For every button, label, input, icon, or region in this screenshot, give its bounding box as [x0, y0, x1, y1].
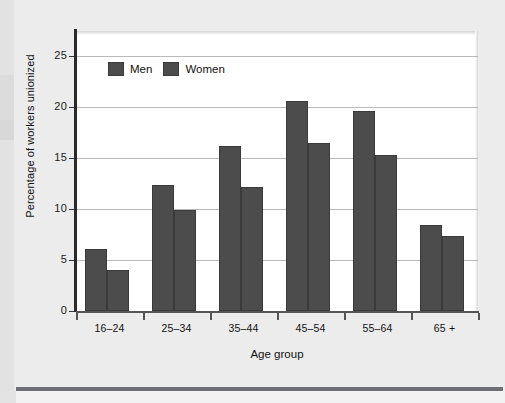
x-axis-tick-label: 25–34 — [143, 322, 210, 334]
page-background: 0510152025 Percentage of workers unioniz… — [0, 0, 505, 403]
gridline — [76, 209, 478, 210]
x-axis-tick-mark — [277, 313, 279, 320]
plot-right-shading — [475, 31, 478, 312]
legend-label-women: Women — [185, 63, 224, 75]
bar-men-0 — [85, 249, 107, 311]
bar-women-5 — [442, 236, 464, 311]
bar-chart: 0510152025 Percentage of workers unioniz… — [0, 0, 505, 389]
legend: Men Women — [108, 62, 225, 76]
x-axis-tick-mark — [478, 313, 480, 320]
bar-women-3 — [308, 143, 330, 311]
x-axis-tick-label: 45–54 — [277, 322, 344, 334]
x-axis-tick-mark — [344, 313, 346, 320]
y-axis-tick-label: 5 — [27, 253, 67, 265]
legend-label-men: Men — [130, 63, 152, 75]
legend-swatch-women — [163, 62, 179, 76]
x-axis-tick-label: 65 + — [411, 322, 478, 334]
bar-men-2 — [219, 146, 241, 311]
gridline — [76, 260, 478, 261]
plot-top-shading — [76, 31, 478, 35]
legend-item-women: Women — [163, 62, 224, 76]
bar-men-3 — [286, 101, 308, 311]
bar-women-2 — [241, 187, 263, 311]
x-axis-tick-mark — [411, 313, 413, 320]
y-axis-tick-label: 0 — [27, 304, 67, 316]
page-bottom-left-strip — [0, 391, 16, 403]
y-axis-line — [74, 29, 77, 312]
y-axis-title: Percentage of workers unionized — [24, 36, 36, 236]
bar-men-4 — [353, 111, 375, 311]
x-axis-tick-mark — [76, 313, 78, 320]
x-axis-tick-label: 55–64 — [344, 322, 411, 334]
bar-women-1 — [174, 210, 196, 311]
gridline — [76, 56, 478, 57]
bar-women-4 — [375, 155, 397, 311]
bar-men-1 — [152, 185, 174, 311]
gridline — [76, 107, 478, 108]
x-axis-tick-mark — [143, 313, 145, 320]
x-axis-tick-label: 35–44 — [210, 322, 277, 334]
legend-item-men: Men — [108, 62, 152, 76]
x-axis-tick-mark — [210, 313, 212, 320]
legend-swatch-men — [108, 62, 124, 76]
x-axis-tick-label: 16–24 — [76, 322, 143, 334]
x-axis-title: Age group — [76, 348, 478, 360]
bar-women-0 — [107, 270, 129, 311]
bar-men-5 — [420, 225, 442, 311]
gridline — [76, 158, 478, 159]
page-bottom-strip — [0, 391, 505, 403]
